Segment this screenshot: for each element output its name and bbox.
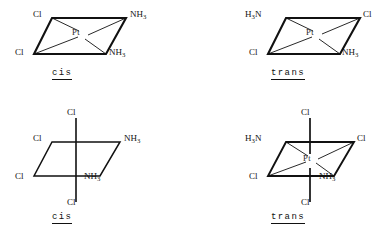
- caption-top-right-trans: trans: [271, 68, 305, 80]
- ligand-label-cl-bottom-left: Cl: [15, 48, 24, 57]
- ligand-label-cl-bottom-left: Cl: [15, 172, 24, 181]
- ligand-label-cl-bottom-left: Cl: [249, 172, 258, 181]
- structure-octahedral-trans: Cl H3N Cl Cl NH3 Cl Pt: [268, 118, 376, 208]
- structure-square-planar-trans: H3N Cl Cl NH3 Pt: [268, 10, 376, 66]
- ligand-label-cl-axial-top: Cl: [301, 108, 310, 117]
- caption-top-left-cis: cis: [52, 68, 72, 80]
- caption-bottom-right-trans: trans: [271, 212, 305, 224]
- structure-square-planar-cis: Cl NH3 Cl NH3 Pt: [34, 10, 174, 66]
- ligand-label-nh3-top-right: NH3: [124, 134, 140, 145]
- center-atom-label-pt: Pt: [72, 28, 80, 37]
- ligand-label-cl-top-right: Cl: [363, 10, 372, 19]
- ligand-label-cl-bottom-left: Cl: [249, 48, 258, 57]
- structure-octahedral-cis: Cl Cl NH3 Cl NH3 Cl: [34, 118, 174, 208]
- octahedral-cis-skeleton: [34, 118, 174, 208]
- ligand-label-cl-axial-bottom: Cl: [67, 198, 76, 207]
- caption-bottom-left-cis: cis: [52, 212, 72, 224]
- ligand-label-cl-axial-top: Cl: [67, 108, 76, 117]
- ligand-label-nh3-bottom-right: NH3: [109, 48, 125, 59]
- center-atom-label-pt: Pt: [303, 154, 311, 163]
- ligand-label-cl-top-left: Cl: [33, 10, 42, 19]
- square-planar-trans-skeleton: [268, 10, 376, 66]
- octahedral-trans-skeleton: [268, 118, 376, 208]
- ligand-label-nh3-top-right: NH3: [130, 10, 146, 21]
- center-atom-label-pt: Pt: [306, 28, 314, 37]
- ligand-label-nh3-bottom-right: NH3: [319, 172, 335, 183]
- ligand-label-h3n-top-left: H3N: [245, 134, 261, 145]
- square-planar-cis-skeleton: [34, 10, 174, 66]
- ligand-label-nh3-bottom-right: NH3: [84, 172, 100, 183]
- ligand-label-nh3-bottom-right: NH3: [342, 48, 358, 59]
- ligand-label-h3n-top-left: H3N: [245, 10, 261, 21]
- ligand-label-cl-top-right: Cl: [357, 134, 366, 143]
- ligand-label-cl-top-left: Cl: [33, 134, 42, 143]
- ligand-label-cl-axial-bottom: Cl: [301, 198, 310, 207]
